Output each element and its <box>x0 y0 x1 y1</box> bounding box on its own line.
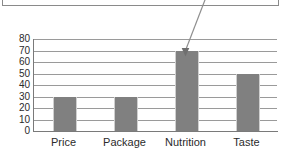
bar-chart: 80706050403020100 PricePackageNutritionT… <box>0 0 283 160</box>
y-tick-label-20: 20 <box>4 103 30 113</box>
y-axis-tick-labels: 80706050403020100 <box>0 0 30 160</box>
bar-package <box>114 97 138 132</box>
bar-taste <box>236 74 260 132</box>
x-tick-label-package: Package <box>94 136 155 148</box>
bar-nutrition <box>175 51 199 132</box>
bar-price <box>53 97 77 132</box>
chart-screenshot: 80706050403020100 PricePackageNutritionT… <box>0 0 283 160</box>
x-axis-line <box>33 131 278 132</box>
x-tick-label-taste: Taste <box>216 136 277 148</box>
gridline-60 <box>33 62 277 63</box>
y-tick-label-10: 10 <box>4 115 30 125</box>
y-tick-label-30: 30 <box>4 92 30 102</box>
y-tick-label-80: 80 <box>4 34 30 44</box>
x-tick-label-nutrition: Nutrition <box>155 136 216 148</box>
gridline-80 <box>33 39 277 40</box>
y-tick-label-0: 0 <box>4 126 30 136</box>
y-tick-label-50: 50 <box>4 69 30 79</box>
gridline-70 <box>33 51 277 52</box>
y-axis-line <box>33 39 34 132</box>
y-tick-label-70: 70 <box>4 46 30 56</box>
y-tick-label-40: 40 <box>4 80 30 90</box>
y-tick-label-60: 60 <box>4 57 30 67</box>
x-tick-label-price: Price <box>33 136 94 148</box>
